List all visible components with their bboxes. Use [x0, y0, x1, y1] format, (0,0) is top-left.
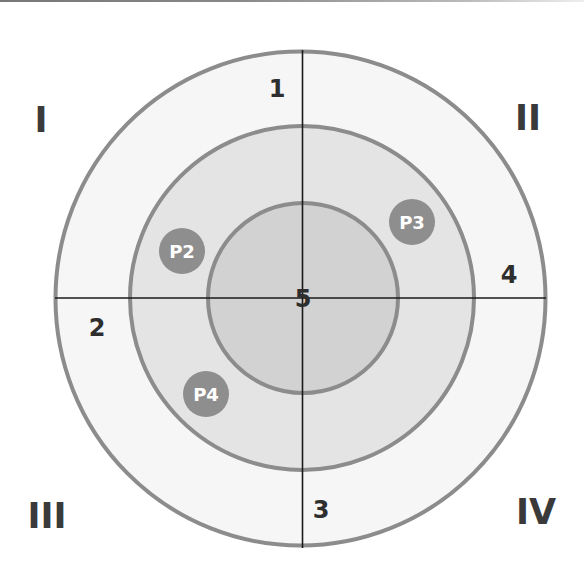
quadrant-label-ii: II — [515, 98, 541, 138]
point-p2: P2 — [159, 228, 205, 274]
point-p4-label: P4 — [193, 384, 219, 405]
point-p3-label: P3 — [399, 212, 425, 233]
point-p4: P4 — [183, 371, 229, 417]
quadrant-label-iii: III — [27, 496, 66, 536]
quadrant-label-iv: IV — [516, 492, 556, 532]
zone-label-2: 2 — [89, 314, 106, 342]
point-p2-label: P2 — [169, 241, 195, 262]
zone-label-5: 5 — [295, 285, 312, 313]
zone-label-1: 1 — [269, 75, 286, 103]
target-diagram: I II III IV 1 2 3 4 5 P2 P3 P4 — [0, 0, 584, 572]
zone-label-3: 3 — [313, 496, 330, 524]
point-p3: P3 — [389, 199, 435, 245]
quadrant-label-i: I — [34, 100, 47, 140]
zone-label-4: 4 — [501, 261, 518, 289]
